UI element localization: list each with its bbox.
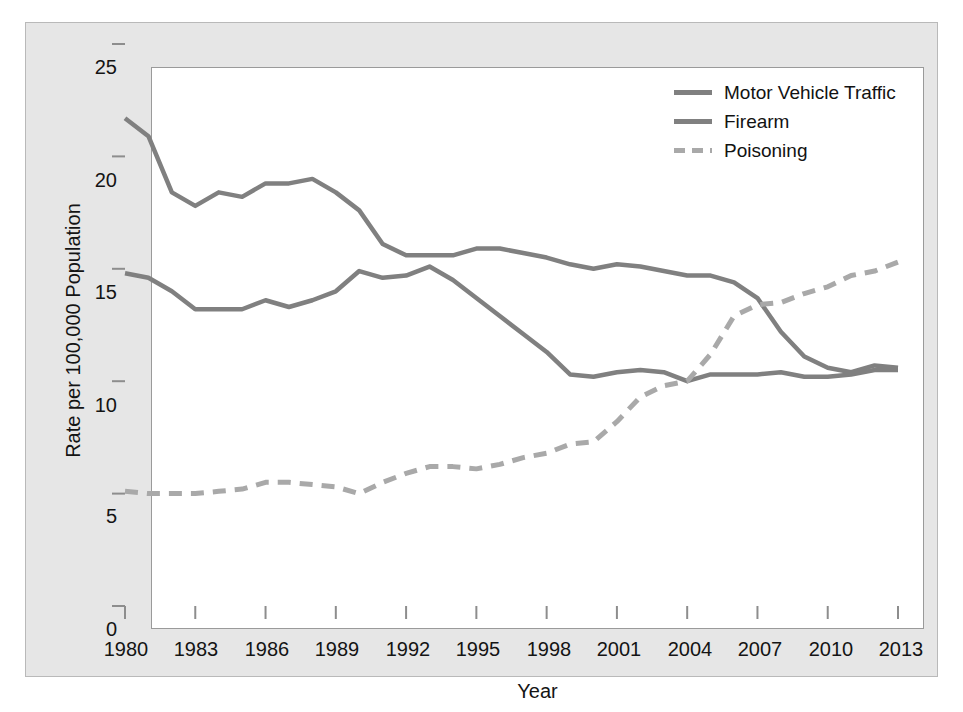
- figure-page: 25 20 15 10 5 0 1980 1983 1986 1989 1992…: [0, 0, 963, 712]
- series-line-firearm: [125, 267, 898, 382]
- series-line-motor-vehicle-traffic: [125, 118, 898, 372]
- series-line-poisoning: [125, 262, 898, 494]
- figure-caption: [25, 697, 938, 712]
- series-layer: [125, 118, 898, 493]
- chart-canvas: [0, 0, 963, 712]
